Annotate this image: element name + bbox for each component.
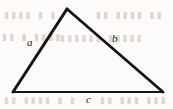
side-label-b: b [112, 33, 118, 44]
side-label-a: a [27, 37, 33, 48]
side-label-c: c [86, 94, 91, 105]
triangle-side-a [13, 9, 67, 92]
triangle-figure: ▮▮▮▮ ▮ ▮ ▮▮ ▮▮▮▮ ▮▮ ▮▮ ▮ ▮▮▮▮ ▮▮▮▮▮▮ ▮▮▮… [0, 0, 173, 109]
triangle-side-b [67, 9, 163, 92]
